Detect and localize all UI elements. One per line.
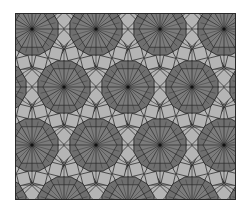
rosette [133, 118, 187, 172]
tiling-svg [15, 13, 236, 200]
rosette [165, 60, 219, 114]
rosette [101, 60, 155, 114]
rosette [37, 60, 91, 114]
tiling-figure [15, 13, 236, 200]
rosette [69, 118, 123, 172]
